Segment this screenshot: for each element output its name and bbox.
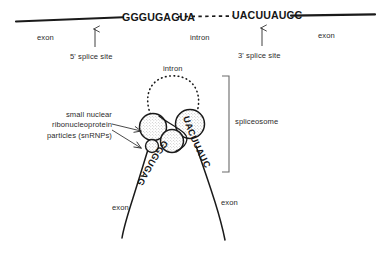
three-prime-splice-site-label: 3' splice site	[238, 51, 281, 61]
bottom-left-exon-label: exon	[112, 203, 129, 213]
three-prime-sequence-text: UACUUAUCC	[232, 9, 302, 21]
bracket-path	[222, 76, 229, 172]
bottom-right-exon-label: exon	[221, 198, 238, 208]
top-left-exon-label: exon	[37, 33, 54, 43]
bottom-intron-label: intron	[163, 64, 183, 74]
snrnp-caption-line-1: small nuclear	[14, 110, 112, 120]
five-prime-splice-site-label: 5' splice site	[70, 52, 113, 62]
spliceosome-label: spliceosome	[235, 117, 278, 127]
bottom-left-exon-strand	[122, 143, 150, 238]
spliceosome-bracket	[222, 76, 229, 172]
snrnp-leader-arrows	[112, 124, 141, 148]
top-premrna-line	[16, 14, 375, 21]
snrnp-caption: small nuclear ribonucleoprotein particle…	[14, 110, 112, 141]
snrnp-caption-line-3: particles (snRNPs)	[14, 131, 112, 141]
left-exon-line	[16, 17, 123, 21]
five-prime-sequence-text: GGGUGAGUA	[122, 11, 195, 23]
right-exon-line	[291, 14, 375, 15]
splicing-figure: GGGUGAGUA UACUUAUCC GGGUGAGUA UACUUAUCC …	[0, 0, 390, 256]
top-right-exon-label: exon	[318, 31, 335, 41]
snrnp-arrow-upper	[112, 124, 141, 131]
snrnp-arrow-lower	[112, 130, 141, 148]
top-intron-label: intron	[190, 33, 210, 43]
splice-site-arrows	[95, 28, 262, 47]
snrnp-caption-line-2: ribonucleoprotein	[14, 120, 112, 130]
